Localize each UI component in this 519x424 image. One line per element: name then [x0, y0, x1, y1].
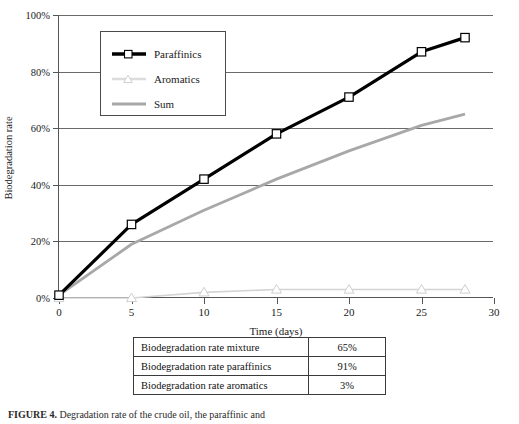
data-point-marker — [200, 175, 208, 183]
chart-plot: Biodegradation rate Time (days) 0%20%40%… — [0, 0, 519, 316]
figure-caption: FIGURE 4. Degradation rate of the crude … — [8, 409, 513, 420]
x-tick — [422, 298, 423, 304]
x-tick-label: 5 — [129, 306, 135, 318]
y-tick-label: 80% — [31, 66, 50, 77]
summary-table: Biodegradation rate mixture65%Biodegrada… — [133, 337, 386, 395]
legend-swatch-paraffinics — [112, 48, 146, 60]
y-tick-label: 100% — [26, 10, 51, 21]
data-point-marker — [127, 220, 135, 228]
y-tick-label: 60% — [31, 123, 50, 134]
y-tick-label: 0% — [36, 293, 50, 304]
data-point-marker — [461, 33, 469, 41]
legend-swatch-aromatics — [112, 73, 146, 85]
x-tick-label: 25 — [416, 306, 427, 318]
data-point-marker — [55, 291, 63, 299]
table-cell-label: Biodegradation rate mixture — [134, 338, 309, 357]
data-point-marker — [417, 48, 425, 56]
legend-item-aromatics: Aromatics — [101, 66, 225, 91]
series-aromatics — [54, 285, 470, 302]
table-cell-value: 65% — [309, 338, 386, 357]
data-point-marker — [345, 93, 353, 101]
legend-item-sum: Sum — [101, 91, 225, 116]
x-tick — [204, 298, 205, 304]
chart-legend: Paraffinics Aromatics Sum — [100, 31, 226, 116]
series-line — [59, 290, 465, 298]
x-axis-title: Time (days) — [249, 325, 302, 337]
table-row: Biodegradation rate mixture65% — [134, 338, 386, 357]
legend-label-aromatics: Aromatics — [154, 73, 200, 85]
x-tick — [277, 298, 278, 304]
x-tick-label: 15 — [271, 306, 282, 318]
caption-prefix: FIGURE 4. — [8, 409, 57, 420]
x-tick-label: 20 — [344, 306, 355, 318]
table-cell-label: Biodegradation rate paraffinics — [134, 357, 309, 376]
y-tick-label: 40% — [31, 179, 50, 190]
x-tick-label: 30 — [489, 306, 500, 318]
table-cell-value: 91% — [309, 357, 386, 376]
figure-container: Biodegradation rate Time (days) 0%20%40%… — [0, 0, 519, 424]
y-axis-title: Biodegradation rate — [3, 116, 14, 199]
legend-label-paraffinics: Paraffinics — [154, 48, 201, 60]
data-point-marker — [272, 130, 280, 138]
table-row: Biodegradation rate aromatics3% — [134, 376, 386, 395]
x-tick-label: 10 — [199, 306, 210, 318]
x-tick — [349, 298, 350, 304]
table-row: Biodegradation rate paraffinics91% — [134, 357, 386, 376]
table-cell-label: Biodegradation rate aromatics — [134, 376, 309, 395]
x-tick — [494, 298, 495, 304]
caption-text: Degradation rate of the crude oil, the p… — [59, 409, 265, 420]
x-tick-label: 0 — [56, 306, 62, 318]
legend-item-paraffinics: Paraffinics — [101, 41, 225, 66]
table-cell-value: 3% — [309, 376, 386, 395]
legend-swatch-sum — [112, 98, 146, 110]
legend-label-sum: Sum — [154, 98, 174, 110]
y-tick-label: 20% — [31, 236, 50, 247]
